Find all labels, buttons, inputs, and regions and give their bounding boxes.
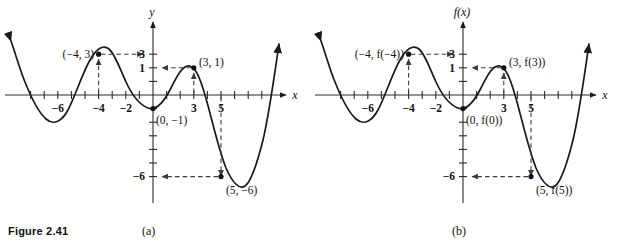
graph-b-svg: −6 −4 −2 3 5 3 1 −6 f(x) x (−4, f(−4)) (… — [310, 0, 619, 225]
y-tick-label-b-1: 1 — [449, 62, 455, 74]
point-label-min-b: (5, f(5)) — [536, 184, 573, 197]
y-tick-label-b-0: 3 — [449, 48, 455, 60]
graph-a-svg: −6 −4 −2 3 5 3 1 −6 y x (−4, 3) (3, 1) (… — [0, 0, 309, 225]
x-tick-label-b-0: −6 — [362, 102, 375, 114]
function-curve-b — [321, 41, 589, 187]
point-5-minus6-a — [218, 174, 223, 179]
y-axis-label-b: f(x) — [454, 5, 471, 19]
x-tick-label-b-2: −2 — [430, 102, 443, 114]
point-0-minus1-a — [150, 106, 155, 111]
point-label-left-peak-a: (−4, 3) — [63, 48, 95, 61]
point-minus4-3-a — [96, 52, 101, 57]
figure-container: −6 −4 −2 3 5 3 1 −6 y x (−4, 3) (3, 1) (… — [0, 0, 619, 251]
panel-a-graph: −6 −4 −2 3 5 3 1 −6 y x (−4, 3) (3, 1) (… — [0, 0, 309, 251]
x-tick-label-b-3: 3 — [501, 102, 507, 114]
x-tick-label-b-1: −4 — [402, 102, 415, 114]
x-axis-label-a: x — [291, 88, 298, 102]
x-tick-label-a-2: −2 — [120, 102, 133, 114]
point-label-origin-a: (0, −1) — [156, 114, 188, 127]
x-axis-label-b: x — [601, 88, 608, 102]
point-label-mid-b: (3, f(3)) — [509, 56, 546, 69]
point-3-f3-b — [501, 65, 506, 70]
x-tick-label-a-0: −6 — [52, 102, 65, 114]
point-label-origin-b: (0, f(0)) — [466, 114, 503, 127]
y-tick-label-a-0: 3 — [139, 48, 145, 60]
point-label-left-peak-b: (−4, f(−4)) — [355, 48, 405, 61]
y-axis-label-a: y — [148, 5, 155, 19]
y-tick-label-b-2: −6 — [443, 170, 456, 182]
x-tick-label-a-4: 5 — [218, 102, 224, 114]
point-0-f0-b — [460, 106, 465, 111]
point-minus4-fminus4-b — [406, 52, 411, 57]
x-tick-label-a-3: 3 — [191, 102, 197, 114]
point-label-min-a: (5, −6) — [226, 184, 258, 197]
y-tick-label-a-2: −6 — [133, 170, 146, 182]
panel-b-caption: (b) — [452, 224, 466, 239]
point-5-f5-b — [528, 174, 533, 179]
panel-a-caption: (a) — [142, 224, 155, 239]
y-tick-label-a-1: 1 — [139, 62, 145, 74]
function-curve-a — [11, 41, 279, 187]
x-tick-label-a-1: −4 — [92, 102, 105, 114]
point-label-mid-a: (3, 1) — [199, 56, 224, 69]
figure-number-caption: Figure 2.41 — [8, 225, 68, 237]
panel-b-graph: −6 −4 −2 3 5 3 1 −6 f(x) x (−4, f(−4)) (… — [310, 0, 619, 251]
point-3-1-a — [191, 65, 196, 70]
x-tick-label-b-4: 5 — [528, 102, 534, 114]
